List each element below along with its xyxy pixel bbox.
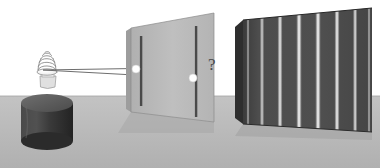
slit-screen	[126, 13, 214, 122]
cfl-bulb-icon	[37, 52, 57, 76]
diagram-canvas	[0, 0, 380, 168]
lamp-base-bottom	[21, 132, 73, 150]
slit-1	[140, 36, 142, 106]
question-mark-label: ?	[208, 56, 216, 73]
lamp-socket	[40, 76, 56, 89]
light-source	[21, 52, 73, 151]
lamp-base	[21, 94, 73, 150]
slit-screen-face	[131, 13, 214, 122]
slit-screen-side-face	[126, 28, 131, 112]
slit-2	[195, 26, 197, 117]
lamp-base-top	[21, 94, 73, 112]
detection-screen-side-face	[235, 20, 243, 124]
physics-diagram-double-slit: ?	[0, 0, 380, 168]
slit-2-aperture	[189, 74, 197, 82]
light-ray-1	[43, 69, 134, 71]
slit-1-aperture	[132, 65, 140, 73]
